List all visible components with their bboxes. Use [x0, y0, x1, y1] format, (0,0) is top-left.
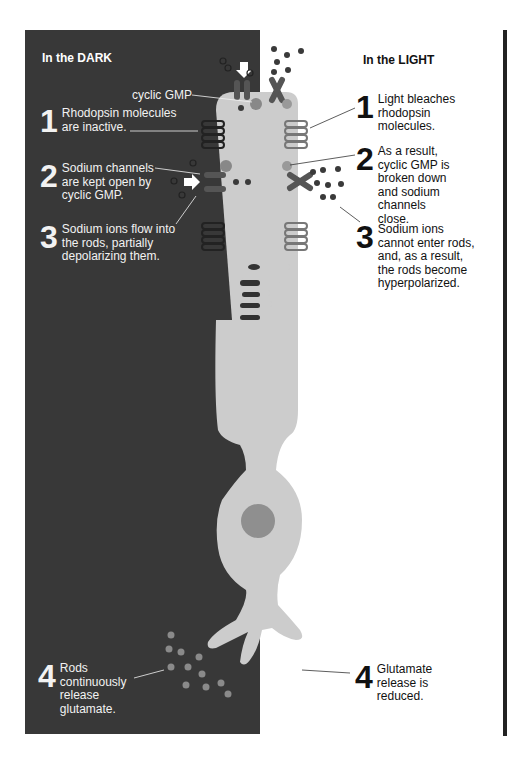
- dark-step-1: 1 Rhodopsin molecules are inactive.: [40, 107, 190, 135]
- leader-lines-light: [290, 108, 360, 673]
- dark-step-3: 3 Sodium ions flow into the rods, partia…: [40, 223, 190, 264]
- light-step-4: 4 Glutamate release is reduced.: [355, 663, 475, 704]
- step-text: Sodium ions flow into the rods, partiall…: [62, 223, 180, 264]
- light-heading: In the LIGHT: [363, 53, 434, 67]
- step-number: 3: [40, 223, 58, 251]
- step-text: Sodium channels are kept open by cyclic …: [62, 162, 162, 203]
- nucleus: [241, 504, 275, 538]
- dark-step-2: 2 Sodium channels are kept open by cycli…: [40, 162, 170, 203]
- step-text: Light bleaches rhodopsin molecules.: [378, 93, 456, 134]
- dark-heading: In the DARK: [42, 51, 112, 65]
- light-step-3: 3 Sodium ions cannot enter rods, and, as…: [356, 223, 496, 291]
- step-number: 2: [40, 162, 58, 190]
- step-number: 4: [355, 663, 373, 691]
- dark-step-4: 4 Rods continuously release glutamate.: [38, 662, 138, 716]
- cyclic-gmp-molecule: [250, 98, 262, 110]
- step-number: 1: [40, 107, 58, 135]
- step-number: 1: [356, 93, 374, 121]
- arrow-right-icon: [184, 174, 200, 190]
- step-text: Rhodopsin molecules are inactive.: [62, 107, 177, 134]
- cyclic-gmp-broken: [282, 161, 292, 171]
- rhodopsin-dark-bottom: [202, 223, 224, 250]
- step-number: 2: [356, 145, 374, 173]
- step-text: Sodium ions cannot enter rods, and, as a…: [378, 223, 478, 291]
- cyclic-gmp-molecule: [220, 160, 232, 172]
- step-number: 3: [356, 223, 374, 251]
- step-text: Glutamate release is reduced.: [377, 663, 457, 704]
- light-step-2: 2 As a result, cyclic GMP is broken down…: [356, 145, 486, 226]
- light-step-1: 1 Light bleaches rhodopsin molecules.: [356, 93, 486, 134]
- cyclic-gmp-label: cyclic GMP: [132, 88, 192, 102]
- step-text: As a result, cyclic GMP is broken down a…: [378, 145, 460, 226]
- cyclic-gmp-broken: [282, 99, 292, 109]
- step-number: 4: [38, 662, 56, 690]
- step-text: Rods continuously release glutamate.: [60, 662, 130, 716]
